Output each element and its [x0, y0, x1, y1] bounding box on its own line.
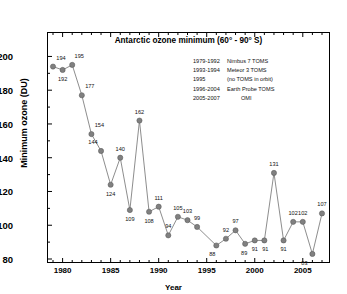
data-point-label: 144 [88, 139, 97, 145]
ozone-chart: Minimum ozone (DU) Antarctic ozone minim… [0, 0, 347, 294]
y-tick-label: 180 [0, 85, 13, 96]
data-point-marker[interactable] [50, 64, 55, 69]
x-tick-label: 1995 [187, 266, 227, 275]
x-tick-label: 1985 [91, 266, 131, 275]
legend-row: 1979-1992Nimbus 7 TOMS [193, 57, 321, 66]
data-point-marker[interactable] [127, 207, 132, 212]
data-point-label: 111 [154, 195, 163, 201]
y-tick-label: 100 [0, 220, 13, 231]
y-tick-label: 120 [0, 186, 13, 197]
x-tick-label: 2000 [235, 266, 275, 275]
data-point-label: 108 [144, 218, 153, 224]
data-point-marker[interactable] [300, 219, 305, 224]
data-point-marker[interactable] [243, 241, 248, 246]
legend-years: 1993-1994 [193, 66, 227, 75]
y-tick-label: 80 [0, 254, 13, 265]
data-point-label: 192 [58, 76, 67, 82]
x-tick-label: 2005 [283, 266, 323, 275]
x-axis-title: Year [0, 283, 347, 292]
data-point-marker[interactable] [310, 251, 315, 256]
data-point-marker[interactable] [214, 243, 219, 248]
data-point-marker[interactable] [195, 224, 200, 229]
data-point-label: 105 [173, 205, 182, 211]
data-point-label: 102 [289, 210, 298, 216]
data-point-label: 83 [301, 260, 307, 266]
legend-row: 1995(no TOMS in orbit) [193, 75, 321, 84]
data-point-marker[interactable] [89, 131, 94, 136]
data-point-label: 91 [262, 246, 268, 252]
data-point-marker[interactable] [118, 155, 123, 160]
legend-instrument: (no TOMS in orbit) [227, 75, 321, 84]
data-point-label: 102 [298, 210, 307, 216]
data-point-label: 91 [280, 246, 286, 252]
legend-years: 1996-2004 [193, 85, 227, 94]
data-point-marker[interactable] [281, 238, 286, 243]
legend-instrument: Nimbus 7 TOMS [227, 57, 321, 66]
data-point-marker[interactable] [146, 209, 151, 214]
data-point-marker[interactable] [137, 118, 142, 123]
data-point-marker[interactable] [166, 233, 171, 238]
data-point-label: 194 [56, 55, 65, 61]
legend-years: 1995 [193, 75, 227, 84]
data-point-marker[interactable] [79, 93, 84, 98]
data-point-marker[interactable] [233, 228, 238, 233]
data-point-marker[interactable] [291, 219, 296, 224]
data-point-marker[interactable] [262, 238, 267, 243]
legend-years: 1979-1992 [193, 57, 227, 66]
data-point-marker[interactable] [60, 67, 65, 72]
data-point-label: 154 [95, 122, 104, 128]
data-point-marker[interactable] [223, 236, 228, 241]
data-point-marker[interactable] [185, 218, 190, 223]
data-point-label: 97 [232, 218, 238, 224]
data-point-label: 131 [269, 161, 278, 167]
data-point-label: 140 [116, 146, 125, 152]
data-point-marker[interactable] [319, 211, 324, 216]
data-point-marker[interactable] [108, 182, 113, 187]
data-point-label: 94 [165, 223, 171, 229]
data-point-marker[interactable] [156, 204, 161, 209]
legend-row: 2005-2007OMI [193, 94, 321, 103]
x-tick-label: 1980 [43, 266, 83, 275]
chart-canvas [0, 0, 347, 294]
legend-years: 2005-2007 [193, 94, 227, 103]
data-point-label: 88 [209, 251, 215, 257]
legend-instrument: Meteor 3 TOMS [227, 66, 321, 75]
data-point-marker[interactable] [252, 238, 257, 243]
data-point-label: 124 [106, 191, 115, 197]
legend-row: 1996-2004Earth Probe TOMS [193, 85, 321, 94]
y-tick-label: 160 [0, 118, 13, 129]
x-tick-label: 1990 [139, 266, 179, 275]
data-point-marker[interactable] [271, 170, 276, 175]
data-point-label: 195 [75, 53, 84, 59]
data-point-label: 91 [252, 246, 258, 252]
data-point-marker[interactable] [70, 62, 75, 67]
data-point-label: 109 [125, 216, 134, 222]
legend-instrument: Earth Probe TOMS [227, 85, 321, 94]
legend-instrument: OMI [227, 94, 321, 103]
y-tick-label: 140 [0, 152, 13, 163]
data-point-label: 177 [85, 83, 94, 89]
data-point-marker[interactable] [98, 148, 103, 153]
instrument-legend: 1979-1992Nimbus 7 TOMS1993-1994Meteor 3 … [193, 57, 321, 103]
data-point-label: 99 [194, 215, 200, 221]
y-tick-label: 200 [0, 51, 13, 62]
legend-row: 1993-1994Meteor 3 TOMS [193, 66, 321, 75]
data-point-label: 89 [241, 250, 247, 256]
data-point-marker[interactable] [175, 214, 180, 219]
data-point-label: 162 [135, 109, 144, 115]
data-point-label: 107 [317, 201, 326, 207]
data-point-label: 92 [223, 227, 229, 233]
data-point-label: 103 [183, 208, 192, 214]
